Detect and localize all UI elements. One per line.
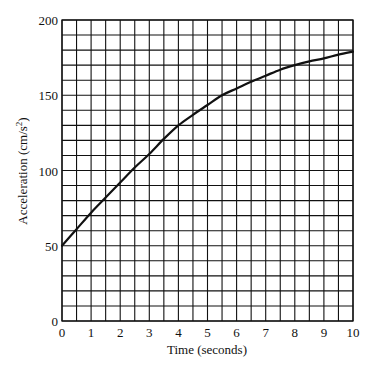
y-tick-label: 50 <box>45 239 58 254</box>
x-tick-label: 5 <box>204 325 211 340</box>
y-tick-label: 100 <box>39 164 59 179</box>
line-chart: 050100150200 012345678910 Time (seconds)… <box>0 0 377 376</box>
x-tick-label: 10 <box>347 325 360 340</box>
x-axis-ticks: 012345678910 <box>59 325 360 340</box>
y-axis-label: Acceleration (cm/s2) <box>14 117 30 224</box>
x-axis-label: Time (seconds) <box>167 342 247 357</box>
x-tick-label: 7 <box>262 325 269 340</box>
x-tick-label: 6 <box>233 325 240 340</box>
x-tick-label: 4 <box>175 325 182 340</box>
y-tick-label: 200 <box>39 13 59 28</box>
y-axis-ticks: 050100150200 <box>39 13 59 329</box>
x-tick-label: 0 <box>59 325 66 340</box>
x-tick-label: 3 <box>146 325 153 340</box>
y-tick-label: 0 <box>52 314 59 329</box>
x-tick-label: 8 <box>292 325 299 340</box>
x-tick-label: 1 <box>88 325 95 340</box>
x-tick-label: 2 <box>117 325 124 340</box>
x-tick-label: 9 <box>321 325 328 340</box>
grid-lines <box>62 20 353 321</box>
y-tick-label: 150 <box>39 88 59 103</box>
